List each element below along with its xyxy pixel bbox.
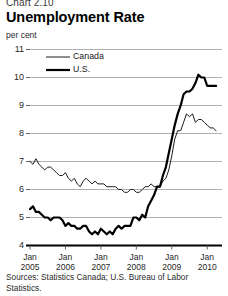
x-axis-tick-year: 2007 bbox=[84, 262, 118, 272]
x-axis-tick-month: Jan bbox=[119, 252, 153, 262]
sources-note: Sources: Statistics Canada; U.S. Bureau … bbox=[6, 272, 222, 293]
y-axis-tick-label: 6 bbox=[4, 184, 24, 194]
y-tick-marks bbox=[26, 50, 30, 246]
x-axis-tick-month: Jan bbox=[84, 252, 118, 262]
y-axis-tick-label: 9 bbox=[4, 100, 24, 110]
y-axis-tick-label: 4 bbox=[4, 240, 24, 250]
x-axis-tick-month: Jan bbox=[48, 252, 82, 262]
x-axis-tick-label: Jan2008 bbox=[119, 252, 153, 272]
x-axis-tick-label: Jan2005 bbox=[13, 252, 47, 272]
series-lines bbox=[30, 75, 216, 235]
x-axis-tick-year: 2006 bbox=[48, 262, 82, 272]
series-line-us bbox=[30, 75, 216, 235]
legend-label-canada: Canada bbox=[73, 51, 104, 61]
legend-label-us: U.S. bbox=[73, 64, 90, 74]
x-axis-tick-year: 2010 bbox=[190, 262, 224, 272]
x-axis-tick-label: Jan2009 bbox=[155, 252, 189, 272]
y-axis-tick-label: 11 bbox=[4, 44, 24, 54]
chart-plot-area: 4567891011 Jan2005Jan2006Jan2007Jan2008J… bbox=[0, 0, 228, 296]
x-axis-tick-label: Jan2010 bbox=[190, 252, 224, 272]
y-axis-tick-label: 5 bbox=[4, 212, 24, 222]
x-axis-tick-year: 2008 bbox=[119, 262, 153, 272]
series-line-canada bbox=[30, 114, 216, 192]
y-axis-tick-label: 8 bbox=[4, 128, 24, 138]
y-axis-tick-label: 7 bbox=[4, 156, 24, 166]
x-axis-tick-year: 2005 bbox=[13, 262, 47, 272]
x-axis-tick-label: Jan2007 bbox=[84, 252, 118, 272]
x-axis-tick-month: Jan bbox=[13, 252, 47, 262]
x-axis-tick-year: 2009 bbox=[155, 262, 189, 272]
x-axis-tick-month: Jan bbox=[190, 252, 224, 262]
x-axis-tick-label: Jan2006 bbox=[48, 252, 82, 272]
legend-swatches bbox=[46, 57, 70, 70]
x-axis-tick-month: Jan bbox=[155, 252, 189, 262]
y-axis-tick-label: 10 bbox=[4, 72, 24, 82]
